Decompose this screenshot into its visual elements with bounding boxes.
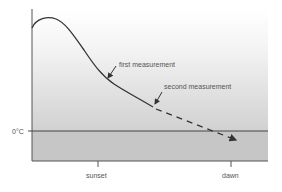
sunset-label: sunset	[86, 172, 107, 179]
dawn-label: dawn	[222, 172, 239, 179]
temperature-diagram: 0°C sunset dawn first measurement second…	[0, 0, 282, 192]
zero-label: 0°C	[12, 128, 24, 135]
below-zero-region	[32, 131, 268, 161]
first-measurement-label: first measurement	[119, 61, 175, 68]
second-measurement-label: second measurement	[164, 83, 231, 90]
